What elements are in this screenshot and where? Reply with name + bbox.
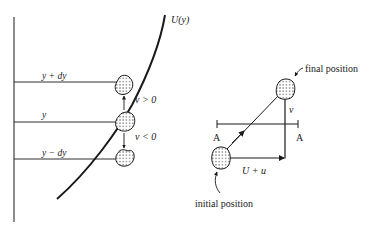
final-position-pointer — [295, 68, 303, 76]
parcel-lower — [116, 150, 134, 166]
fluid-parcel-diagram: y + dy y y − dy U(y) v > 0 v < 0 A A U +… — [0, 0, 373, 231]
curve-label: U(y) — [171, 14, 190, 26]
parcel-initial — [212, 147, 231, 169]
label-v-positive: v > 0 — [135, 94, 156, 105]
left-panel: y + dy y y − dy U(y) v > 0 v < 0 — [14, 14, 190, 222]
plane-label-right: A — [296, 132, 304, 143]
plane-label-left: A — [213, 132, 221, 143]
initial-position-label: initial position — [195, 198, 253, 209]
level-label-y: y — [41, 110, 47, 120]
resultant-arrow-icon — [232, 131, 244, 143]
parcel-middle — [116, 112, 135, 131]
level-label-y-minus-dy: y − dy — [41, 148, 67, 158]
final-position-label: final position — [305, 63, 358, 74]
vertical-component-label: v — [289, 104, 294, 115]
horizontal-component-label: U + u — [242, 165, 266, 176]
parcel-final — [276, 79, 295, 99]
parcel-upper — [115, 75, 133, 94]
velocity-profile-curve — [57, 15, 165, 199]
label-v-negative: v < 0 — [135, 131, 156, 142]
right-panel: A A U + u v final position initial posit… — [195, 63, 358, 209]
initial-position-pointer — [215, 172, 220, 193]
level-label-y-plus-dy: y + dy — [41, 71, 67, 81]
